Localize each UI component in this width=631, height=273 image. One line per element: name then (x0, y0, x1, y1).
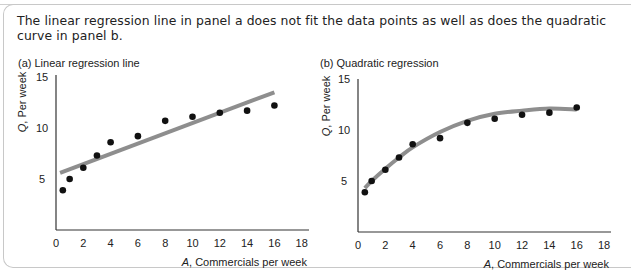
x-tick-label: 8 (464, 239, 470, 251)
data-point (80, 164, 87, 171)
chart-panel-a: 02468101214161851015A, Commercials per w… (0, 0, 320, 273)
data-point (94, 152, 101, 159)
x-tick-label: 10 (186, 237, 198, 249)
y-tick-label: 15 (36, 71, 48, 83)
y-tick-label: 15 (338, 73, 350, 85)
x-tick-label: 2 (80, 237, 86, 249)
data-point (519, 111, 526, 118)
y-tick-label: 10 (338, 124, 350, 136)
y-axis-label: Q, Per week (16, 71, 28, 132)
x-tick-label: 10 (489, 239, 501, 251)
x-tick-label: 14 (241, 237, 253, 249)
x-tick-label: 0 (53, 237, 59, 249)
y-axis-label: Q, Per week (320, 75, 332, 136)
chart-panel-b: 02468101214161851015A, Commercials per w… (320, 0, 626, 273)
data-point (217, 109, 224, 116)
data-point (491, 115, 498, 122)
data-point (546, 109, 553, 116)
data-point (409, 141, 416, 148)
x-axis-label: A, Commercials per week (181, 256, 308, 268)
data-point (396, 154, 403, 161)
x-tick-label: 12 (516, 239, 528, 251)
data-point (368, 178, 375, 185)
x-tick-label: 4 (108, 237, 114, 249)
x-tick-label: 16 (571, 239, 583, 251)
y-tick-label: 5 (341, 175, 347, 187)
x-tick-label: 18 (296, 237, 308, 249)
data-point (573, 104, 580, 111)
data-point (362, 189, 369, 196)
y-tick-label: 5 (39, 173, 45, 185)
data-point (135, 133, 142, 140)
data-point (60, 187, 67, 194)
data-point (107, 139, 114, 146)
data-point (66, 176, 73, 183)
x-tick-label: 14 (543, 239, 555, 251)
data-point (382, 166, 389, 173)
data-point (162, 118, 169, 125)
data-point (271, 102, 278, 109)
data-point (244, 107, 251, 114)
data-point (464, 120, 471, 127)
x-tick-label: 2 (382, 239, 388, 251)
x-tick-label: 6 (437, 239, 443, 251)
x-tick-label: 12 (214, 237, 226, 249)
x-tick-label: 6 (135, 237, 141, 249)
y-tick-label: 10 (36, 122, 48, 134)
x-tick-label: 8 (162, 237, 168, 249)
x-axis-label: A, Commercials per week (483, 258, 610, 270)
quadratic-regression-curve (365, 109, 577, 189)
data-point (189, 113, 196, 120)
x-tick-label: 0 (355, 239, 361, 251)
linear-regression-line (60, 92, 274, 173)
x-tick-label: 18 (598, 239, 610, 251)
data-point (437, 135, 444, 142)
x-tick-label: 4 (410, 239, 416, 251)
x-tick-label: 16 (268, 237, 280, 249)
